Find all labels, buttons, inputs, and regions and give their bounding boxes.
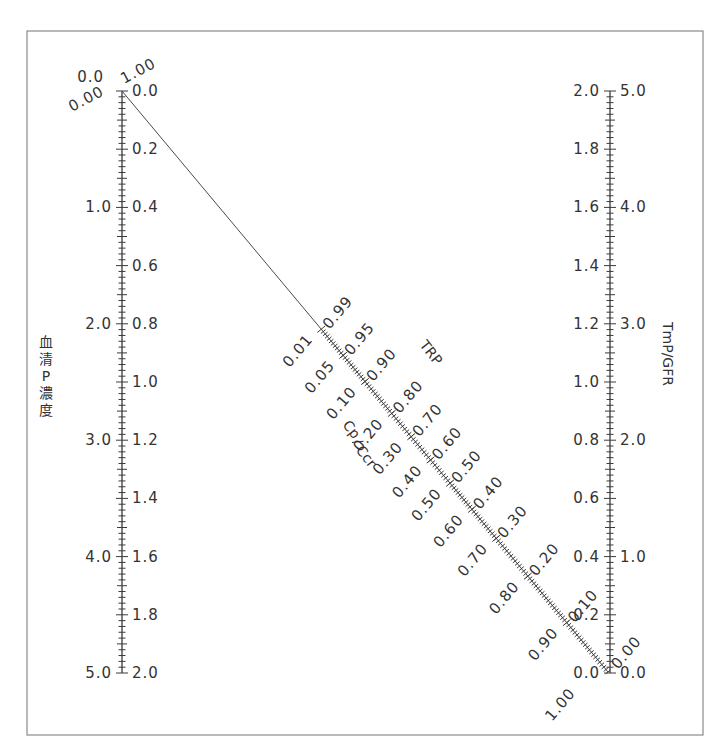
axis-label-outer: 0.6 xyxy=(573,489,600,507)
left-axis-title: 血清P濃度 xyxy=(39,334,53,418)
axis-label-inner: 2.0 xyxy=(620,431,647,449)
axis-label-inner: 1.0 xyxy=(620,548,647,566)
axis-label-outer: 1.0 xyxy=(573,373,600,391)
trp-label: 0.20 xyxy=(525,539,563,579)
trp-label: 0.95 xyxy=(341,319,379,359)
trp-label: 0.30 xyxy=(494,502,532,542)
axis-label-outer: 0.8 xyxy=(573,431,600,449)
axis-label-inner: 1.4 xyxy=(132,489,159,507)
axis-label-inner: 3.0 xyxy=(620,315,647,333)
cp-ccr-label: 0.01 xyxy=(279,331,317,371)
axis-label-outer: 1.8 xyxy=(573,140,600,158)
cp-ccr-label: 0.10 xyxy=(323,383,361,423)
trp-label: 0.80 xyxy=(389,377,427,417)
cp-ccr-label-start: 0.00 xyxy=(65,82,106,115)
cp-ccr-label: 0.70 xyxy=(454,540,492,580)
diagram-frame xyxy=(27,31,703,735)
axis-label-outer: 1.0 xyxy=(85,198,112,216)
axis-label-inner: 0.2 xyxy=(132,140,159,158)
cp-ccr-label: 0.05 xyxy=(301,357,339,397)
left-title-char: P xyxy=(42,368,50,384)
axis-label-inner: 1.6 xyxy=(132,548,159,566)
cp-ccr-label: 0.40 xyxy=(388,461,426,501)
axis-label-outer: 2.0 xyxy=(573,82,600,100)
left-title-char: 血 xyxy=(39,334,53,350)
trp-label: 0.90 xyxy=(362,345,400,385)
trp-label: 0.40 xyxy=(469,473,507,513)
axis-label-outer: 1.6 xyxy=(573,198,600,216)
axis-label-outer: 3.0 xyxy=(85,431,112,449)
axis-label-inner: 4.0 xyxy=(620,198,647,216)
axis-label-outer: 0.4 xyxy=(573,548,600,566)
right-axis-title: TmP/GFR xyxy=(660,321,676,386)
nomogram-diagram: 0.01.02.03.04.05.00.00.20.40.60.81.01.21… xyxy=(0,0,722,748)
axis-label-inner: 0.6 xyxy=(132,257,159,275)
cp-ccr-label: 0.50 xyxy=(408,485,446,525)
axis-label-inner: 0.4 xyxy=(132,198,159,216)
trp-scale-title: TRP xyxy=(416,336,446,368)
cp-ccr-label: 0.90 xyxy=(524,624,562,664)
axis-label-outer: 2.0 xyxy=(85,315,112,333)
trp-label: 0.99 xyxy=(319,292,357,332)
trp-label: 0.60 xyxy=(428,423,466,463)
axis-label-inner: 1.2 xyxy=(132,431,159,449)
left-title-char: 度 xyxy=(39,402,53,418)
axis-label-outer: 0.0 xyxy=(573,664,600,682)
axis-label-outer: 1.4 xyxy=(573,257,600,275)
axis-label-inner: 2.0 xyxy=(132,664,159,682)
cp-ccr-label: 0.80 xyxy=(485,578,523,618)
axis-label-outer: 5.0 xyxy=(85,664,112,682)
axis-label-outer: 4.0 xyxy=(85,548,112,566)
axis-label-inner: 5.0 xyxy=(620,82,647,100)
axis-label-inner: 1.0 xyxy=(132,373,159,391)
cp-ccr-label: 0.60 xyxy=(429,511,467,551)
cp-ccr-label-end: 1.00 xyxy=(541,684,579,724)
left-title-char: 濃 xyxy=(39,385,53,401)
left-axis-serum-p: 0.01.02.03.04.05.00.00.20.40.60.81.01.21… xyxy=(77,68,159,682)
trp-label: 0.70 xyxy=(409,400,447,440)
trp-label: 0.50 xyxy=(447,446,485,486)
left-title-char: 清 xyxy=(39,351,53,367)
axis-label-inner: 1.8 xyxy=(132,606,159,624)
axis-label-outer: 1.2 xyxy=(573,315,600,333)
axis-label-inner: 0.8 xyxy=(132,315,159,333)
axis-label-outer: 0.0 xyxy=(77,68,104,86)
axis-label-inner: 0.0 xyxy=(132,82,159,100)
